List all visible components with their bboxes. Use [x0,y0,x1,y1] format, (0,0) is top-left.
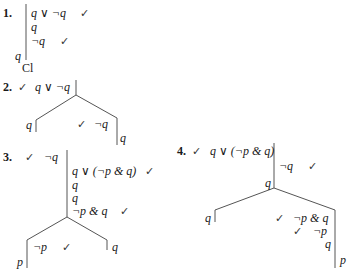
node: p [17,256,23,269]
node: ¬q [94,118,108,131]
tree2-left-edge [36,95,76,120]
node: ¬p & q [72,205,107,218]
check-icon: ✓ [25,151,34,164]
check-icon: ✓ [62,241,71,254]
tree2-right-edge [76,95,117,118]
check-icon: ✓ [308,160,317,173]
node: q [325,238,331,251]
node: ¬p [33,241,47,254]
tree4-right-edge [274,188,335,210]
node: ¬q [279,160,293,173]
node: q [120,132,126,145]
node: q ∨ ¬q [31,7,66,20]
node: q [112,241,118,254]
tree-number: 3. [3,151,12,164]
tree4-left-edge [215,188,274,210]
node: ¬q [44,151,58,164]
node: q [26,119,32,132]
tree-number: 1. [3,7,12,20]
node: q [15,50,21,63]
node: ¬q [31,35,45,48]
check-icon: ✓ [120,205,129,218]
check-icon: ✓ [18,81,27,94]
check-icon: ✓ [77,118,86,131]
tree3-left-edge [27,217,67,240]
node: q [265,177,271,190]
tree-number: 2. [3,81,12,94]
check-icon: ✓ [60,35,69,48]
check-icon: ✓ [145,165,154,178]
node: q [205,212,211,225]
check-icon: ✓ [293,225,302,238]
node: p [340,254,346,267]
check-icon: ✓ [80,7,89,20]
node: q ∨ (¬p & q) [210,145,274,158]
check-icon: ✓ [192,145,201,158]
tree3-right-edge [67,217,107,240]
node: q ∨ (¬p & q) [72,165,136,178]
check-icon: ✓ [275,212,284,225]
closed-marker: Cl [22,62,33,75]
node: q [31,21,37,34]
node: q ∨ ¬q [35,81,70,94]
tree-number: 4. [177,145,186,158]
